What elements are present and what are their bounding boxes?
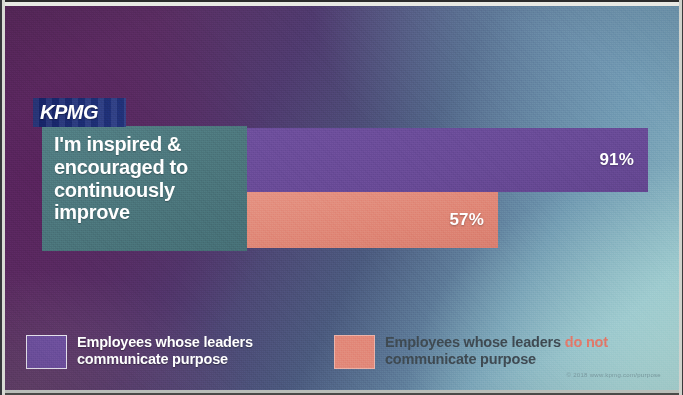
legend-label-communicate-line2: communicate purpose [77,351,228,367]
photo-frame-bottom [0,390,683,395]
bar-not-communicate-purpose: 57% [247,192,498,248]
slide-canvas: KPMG I'm inspired & encouraged to contin… [0,0,683,395]
legend-label-not-communicate-part2: communicate purpose [385,351,536,367]
bar-communicate-purpose: 91% [247,128,648,192]
legend-label-not-communicate-part1: Employees whose leaders [385,334,565,350]
legend-label-not-communicate: Employees whose leaders do not communica… [385,334,620,368]
bar-value-communicate: 91% [599,150,634,170]
bar-value-not-communicate: 57% [449,210,484,230]
photo-frame-top [0,0,683,6]
legend-swatch-communicate [26,335,67,369]
legend-label-not-communicate-emphasis: do not [565,334,608,350]
kpmg-wordmark: KPMG [40,101,98,124]
photo-frame-left [0,0,5,395]
legend-item-communicate: Employees whose leaders communicate purp… [26,334,253,369]
copyright-fine-print: © 2018 www.kpmg.com/purpose [566,372,661,378]
legend-item-not-communicate: Employees whose leaders do not communica… [334,334,620,369]
legend-swatch-not-communicate [334,335,375,369]
statement-text: I'm inspired & encouraged to continuousl… [54,133,244,224]
legend-label-communicate-line1: Employees whose leaders [77,334,253,350]
kpmg-logo-badge: KPMG [33,98,126,127]
legend-label-communicate: Employees whose leaders communicate purp… [77,334,253,368]
statement-panel: I'm inspired & encouraged to continuousl… [42,126,247,251]
photo-frame-right [679,0,683,395]
